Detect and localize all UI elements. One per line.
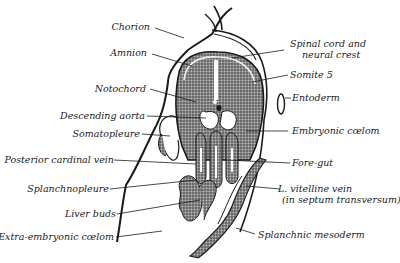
label-liver-buds: Liver buds: [65, 208, 116, 219]
label-extra-embryonic-coelom: Extra-embryonic cœlom: [0, 231, 114, 242]
label-vitelline-vein: L. vitelline vein: [278, 183, 352, 194]
label-somite-5: Somite 5: [290, 69, 333, 80]
label-septum-transversum: (in septum transversum): [282, 194, 400, 205]
label-amnion: Amnion: [110, 47, 147, 58]
label-entoderm: Entoderm: [292, 92, 340, 103]
label-splanchnic-mesoderm: Splanchnic mesoderm: [258, 229, 365, 240]
label-spinal-cord: Spinal cord and: [290, 38, 366, 49]
label-notochord: Notochord: [95, 83, 146, 94]
label-neural-crest: neural crest: [302, 49, 360, 60]
label-somatopleure: Somatopleure: [73, 128, 140, 139]
neural-canal: [214, 60, 218, 100]
label-chorion: Chorion: [111, 21, 150, 32]
label-embryonic-coelom: Embryonic cœlom: [292, 125, 380, 136]
label-posterior-cardinal-vein: Posterior cardinal vein: [4, 154, 114, 165]
label-fore-gut: Fore-gut: [292, 157, 333, 168]
notochord: [217, 105, 222, 111]
label-splanchnopleure: Splanchnopleure: [27, 183, 109, 194]
embryo-section-diagram: Chorion Amnion Notochord Descending aort…: [0, 0, 400, 263]
label-descending-aorta: Descending aorta: [60, 110, 145, 121]
